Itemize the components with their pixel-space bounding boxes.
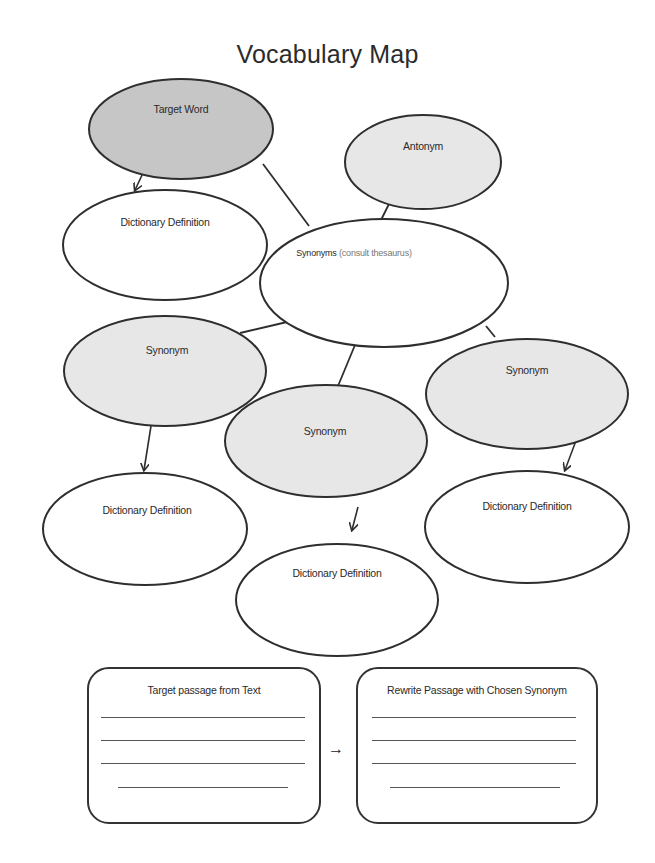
rewrite-passage-title: Rewrite Passage with Chosen Synonym: [358, 684, 596, 696]
synonyms-hub-note: (consult thesaurus): [339, 248, 412, 258]
synonym-right-label: Synonym: [506, 364, 548, 376]
writing-line: [118, 787, 288, 788]
arrow-target-to-definition: [135, 173, 143, 190]
definition-center-node: [236, 544, 438, 656]
synonyms-hub-node: [260, 219, 508, 347]
definition-top-label: Dictionary Definition: [120, 216, 209, 228]
writing-line: [101, 740, 305, 741]
definition-center-label: Dictionary Definition: [292, 567, 381, 579]
definition-right-label: Dictionary Definition: [482, 500, 571, 512]
target-word-label: Target Word: [154, 103, 209, 115]
target-passage-title: Target passage from Text: [89, 684, 319, 696]
connector-synonyms-to-synonym-right: [486, 326, 495, 337]
connector-synonyms-to-synonym-left: [240, 322, 287, 333]
writing-line: [390, 787, 560, 788]
rewrite-passage-box: Rewrite Passage with Chosen Synonym: [356, 667, 598, 824]
synonym-center-label: Synonym: [304, 425, 346, 437]
definition-top-node: [63, 190, 267, 300]
synonyms-hub-title: Synonyms: [296, 248, 336, 258]
connector-synonyms-to-synonym-center: [338, 345, 355, 386]
arrow-synonym-left-to-definition: [144, 426, 151, 470]
connector-target-to-synonyms: [263, 164, 309, 226]
antonym-node: [345, 115, 501, 209]
definition-right-node: [425, 471, 629, 583]
antonym-label: Antonym: [403, 140, 443, 152]
target-word-node: [89, 79, 273, 179]
synonyms-hub-label: Synonyms (consult thesaurus): [296, 248, 411, 258]
synonym-center-node: [225, 385, 427, 497]
definition-left-node: [43, 473, 247, 585]
synonym-right-node: [426, 339, 628, 449]
writing-line: [372, 763, 576, 764]
connector-antonym-to-synonyms: [381, 204, 389, 220]
right-arrow-icon: →: [328, 741, 344, 757]
arrow-synonym-center-to-definition: [352, 507, 358, 530]
synonym-left-label: Synonym: [146, 344, 188, 356]
writing-line: [372, 717, 576, 718]
synonym-left-node: [64, 316, 266, 426]
writing-line: [372, 740, 576, 741]
writing-line: [101, 763, 305, 764]
target-passage-box: Target passage from Text: [87, 667, 321, 824]
writing-line: [101, 717, 305, 718]
definition-left-label: Dictionary Definition: [102, 504, 191, 516]
